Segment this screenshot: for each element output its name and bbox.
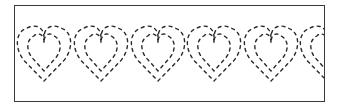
heart-outer-outline: [74, 26, 127, 81]
heart-motif: [300, 26, 325, 81]
heart-inner-outline: [28, 34, 60, 71]
heart-outer-outline: [187, 26, 240, 81]
heart-motif: [131, 26, 184, 81]
heart-motif: [244, 26, 297, 81]
border-frame: [14, 5, 325, 102]
heart-motif: [187, 26, 240, 81]
heart-inner-outline: [198, 34, 230, 71]
heart-inner-outline: [85, 34, 117, 71]
heart-motif: [74, 26, 127, 81]
heart-outer-outline: [131, 26, 184, 81]
heart-inner-outline: [255, 34, 287, 71]
heart-inner-outline: [142, 34, 174, 71]
heart-outer-outline: [244, 26, 297, 81]
heart-inner-outline: [311, 34, 325, 71]
heart-motif: [17, 26, 70, 81]
heart-stitch-pattern: [15, 6, 325, 102]
heart-outer-outline: [17, 26, 70, 81]
